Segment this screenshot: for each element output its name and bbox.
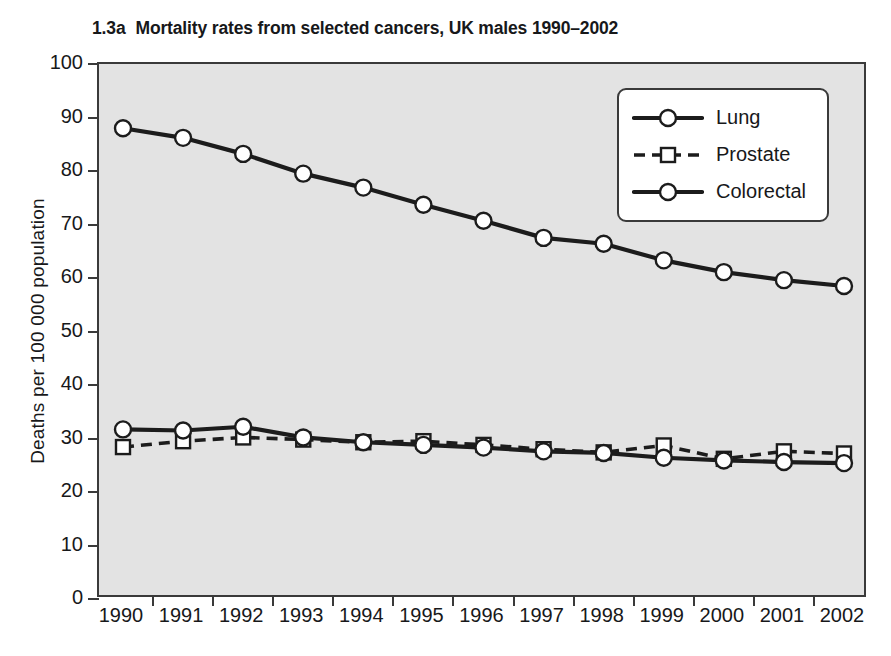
chart-title-index: 1.3a	[92, 18, 125, 38]
data-point	[415, 437, 431, 453]
figure: 1.3aMortality rates from selected cancer…	[0, 0, 891, 656]
legend-label-prostate: Prostate	[716, 143, 790, 166]
data-point	[355, 434, 371, 450]
y-axis-tick-label: 0	[3, 586, 83, 609]
legend-swatch-colorectal-icon	[632, 182, 704, 202]
legend-item-lung[interactable]: Lung	[619, 99, 827, 136]
y-axis-tick	[88, 598, 99, 600]
x-axis-tick-label: 1993	[279, 604, 324, 627]
y-axis-tick	[88, 63, 99, 65]
y-axis-tick-label: 90	[3, 104, 83, 127]
data-point	[476, 213, 492, 229]
x-axis-tick-label: 2001	[760, 604, 805, 627]
x-axis-tick	[513, 595, 515, 606]
data-point	[235, 146, 251, 162]
x-axis-tick	[212, 595, 214, 606]
data-point	[836, 455, 852, 471]
x-axis-tick	[152, 595, 154, 606]
x-axis-tick	[633, 595, 635, 606]
x-axis-tick	[753, 595, 755, 606]
data-point	[716, 452, 732, 468]
x-axis-tick	[573, 595, 575, 606]
data-point	[116, 440, 130, 454]
y-axis-tick-label: 40	[3, 372, 83, 395]
y-axis-tick	[88, 545, 99, 547]
data-point	[536, 230, 552, 246]
y-axis-tick-label: 70	[3, 211, 83, 234]
data-point	[596, 445, 612, 461]
x-axis-tick	[392, 595, 394, 606]
data-point	[656, 252, 672, 268]
y-axis-tick-label: 100	[3, 51, 83, 74]
y-axis-tick	[88, 277, 99, 279]
x-axis-tick-label: 1999	[640, 604, 685, 627]
y-axis-tick	[88, 331, 99, 333]
x-axis-tick-label: 1992	[219, 604, 264, 627]
data-point	[776, 454, 792, 470]
y-axis-tick	[88, 491, 99, 493]
data-point	[776, 272, 792, 288]
chart-title-text: Mortality rates from selected cancers, U…	[135, 18, 618, 38]
data-point	[476, 440, 492, 456]
y-axis-tick-label: 30	[3, 425, 83, 448]
x-axis-tick-label: 2000	[700, 604, 745, 627]
series-colorectal	[115, 419, 852, 471]
data-point	[175, 130, 191, 146]
data-point	[656, 450, 672, 466]
chart-legend: LungProstateColorectal	[617, 88, 829, 222]
x-axis-tick-label: 1991	[159, 604, 204, 627]
x-axis-tick-label: 1990	[99, 604, 144, 627]
data-point	[175, 422, 191, 438]
y-axis-tick-label: 20	[3, 479, 83, 502]
x-axis-tick-label: 1998	[579, 604, 624, 627]
x-axis-tick-label: 1994	[339, 604, 384, 627]
x-axis-tick	[813, 595, 815, 606]
data-point	[115, 421, 131, 437]
y-axis-tick	[88, 384, 99, 386]
data-point	[415, 197, 431, 213]
data-point	[355, 180, 371, 196]
legend-swatch-prostate-icon	[632, 145, 704, 165]
y-axis-tick	[88, 224, 99, 226]
data-point	[596, 236, 612, 252]
legend-label-lung: Lung	[716, 106, 761, 129]
x-axis-tick-label: 1997	[519, 604, 564, 627]
x-axis-tick	[452, 595, 454, 606]
legend-label-colorectal: Colorectal	[716, 180, 806, 203]
data-point	[235, 419, 251, 435]
y-axis-tick	[88, 117, 99, 119]
data-point	[716, 264, 732, 280]
x-axis-tick-label: 1995	[399, 604, 444, 627]
x-axis-tick	[332, 595, 334, 606]
legend-item-prostate[interactable]: Prostate	[619, 136, 827, 173]
x-axis-tick	[693, 595, 695, 606]
x-axis-tick-label: 1996	[459, 604, 504, 627]
y-axis-tick-label: 50	[3, 318, 83, 341]
legend-swatch-lung-icon	[632, 108, 704, 128]
y-axis-tick-label: 60	[3, 265, 83, 288]
x-axis-tick-label: 2002	[820, 604, 865, 627]
data-point	[115, 120, 131, 136]
legend-item-colorectal[interactable]: Colorectal	[619, 173, 827, 210]
data-point	[295, 166, 311, 182]
x-axis-tick	[272, 595, 274, 606]
y-axis-tick	[88, 438, 99, 440]
y-axis-tick-label: 10	[3, 532, 83, 555]
data-point	[536, 443, 552, 459]
chart-title: 1.3aMortality rates from selected cancer…	[92, 18, 618, 39]
data-point	[836, 278, 852, 294]
data-point	[295, 429, 311, 445]
y-axis-tick-label: 80	[3, 158, 83, 181]
y-axis-tick	[88, 170, 99, 172]
